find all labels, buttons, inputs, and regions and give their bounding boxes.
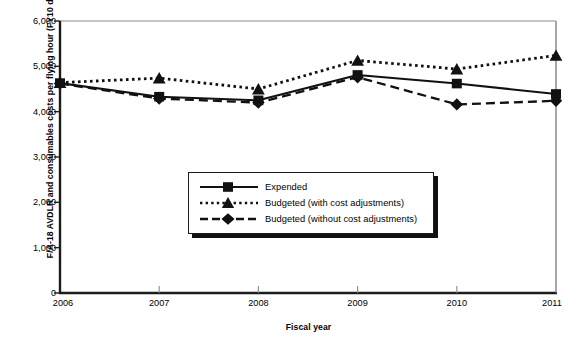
chart-legend: Expended Budgeted (with cost adjustments… — [188, 172, 434, 234]
legend-key-square-solid-icon — [198, 180, 260, 194]
legend-key-triangle-dotted-icon — [198, 196, 260, 210]
legend-label-expended: Expended — [260, 182, 307, 192]
legend-key-diamond-dashed-icon — [198, 212, 260, 226]
legend-label-budgeted-without-adjustments: Budgeted (without cost adjustments) — [260, 214, 417, 224]
legend-item-budgeted-with-adjustments: Budgeted (with cost adjustments) — [189, 195, 433, 211]
legend-item-expended: Expended — [189, 179, 433, 195]
legend-item-budgeted-without-adjustments: Budgeted (without cost adjustments) — [189, 211, 433, 227]
legend-label-budgeted-with-adjustments: Budgeted (with cost adjustments) — [260, 198, 404, 208]
chart-figure: F/A-18 AVDLR and consumables costs per f… — [0, 0, 578, 344]
